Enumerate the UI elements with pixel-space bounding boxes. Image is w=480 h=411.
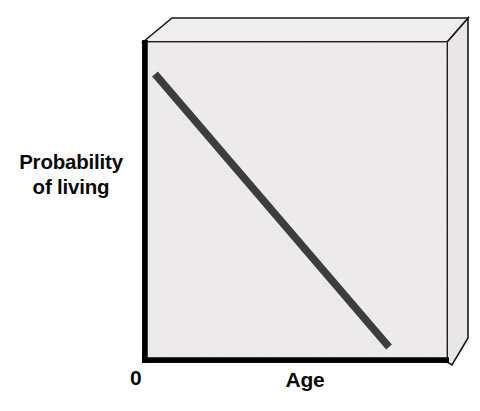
y-axis-title-line2: of living xyxy=(4,174,138,199)
plot-texture xyxy=(143,42,447,362)
box-top-face xyxy=(143,18,468,42)
origin-tick-label: 0 xyxy=(130,366,141,390)
box-right-face xyxy=(447,18,468,365)
y-axis-title: Probability of living xyxy=(4,149,138,199)
y-axis-title-line1: Probability xyxy=(4,149,138,174)
chart-figure: Probability of living 0 Age xyxy=(0,0,480,411)
x-axis-title: Age xyxy=(215,368,395,392)
chart-canvas xyxy=(0,0,480,411)
